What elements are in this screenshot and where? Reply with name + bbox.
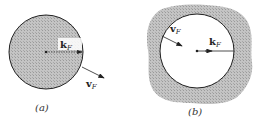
panel-a: kF vF: [9, 15, 104, 91]
caption-b: (b): [188, 106, 202, 117]
panel-b: kF vF: [147, 5, 252, 104]
vf-arrow: [82, 67, 104, 78]
vf-label: vF: [85, 78, 98, 91]
caption-a: (a): [35, 102, 49, 113]
